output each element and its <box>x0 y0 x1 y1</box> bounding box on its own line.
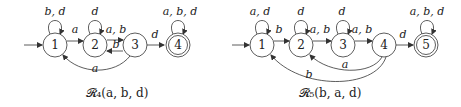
caption-r5: 𝓡₅(b, a, d) <box>299 86 362 100</box>
state-2: 2 <box>289 33 313 57</box>
edge-4-1 <box>271 55 386 82</box>
label-loop1: a, d <box>250 5 271 18</box>
automaton-r4: b, d d a, b, d a a, b b d a 1 2 3 <box>24 5 197 100</box>
automaton-r5: a, d d d a, b, d b a, b a, b d a b 1 2 <box>232 5 444 100</box>
label-loop1: b, d <box>44 5 65 18</box>
svg-text:3: 3 <box>339 38 347 52</box>
label-e12: a <box>72 23 79 36</box>
loop-1 <box>255 21 268 35</box>
svg-text:2: 2 <box>297 38 305 52</box>
label-e34: d <box>151 28 158 41</box>
state-3: 3 <box>331 33 355 57</box>
label-e45: d <box>399 28 406 41</box>
label-loop2: d <box>297 5 304 18</box>
label-e23: a, b <box>310 23 331 36</box>
svg-text:2: 2 <box>91 38 99 52</box>
label-e32: b <box>112 38 119 51</box>
automata-diagram: b, d d a, b, d a a, b b d a 1 2 3 <box>0 0 461 107</box>
state-4-accepting: 4 <box>166 33 190 57</box>
label-e34: a, b <box>352 23 373 36</box>
caption-r4: 𝓡₄(a, b, d) <box>86 86 149 100</box>
state-3: 3 <box>123 33 147 57</box>
state-5-accepting: 5 <box>414 33 438 57</box>
svg-text:1: 1 <box>51 38 59 52</box>
label-loop5: a, b, d <box>410 5 445 18</box>
svg-text:1: 1 <box>258 38 266 52</box>
label-e23: a, b <box>106 23 127 36</box>
loop-1 <box>48 21 61 35</box>
label-loop4: a, b, d <box>163 5 198 18</box>
label-loop3: d <box>338 5 345 18</box>
label-e41: b <box>305 68 312 81</box>
loop-3 <box>336 21 349 35</box>
state-2: 2 <box>83 33 107 57</box>
svg-text:4: 4 <box>380 38 388 52</box>
state-4: 4 <box>372 33 396 57</box>
state-1: 1 <box>43 33 67 57</box>
svg-text:4: 4 <box>174 38 182 52</box>
loop-5 <box>420 21 433 35</box>
label-e12: b <box>275 23 282 36</box>
loop-2 <box>294 21 307 35</box>
label-e42: a <box>342 58 349 71</box>
svg-text:3: 3 <box>131 38 139 52</box>
state-1: 1 <box>250 33 274 57</box>
svg-text:5: 5 <box>422 38 430 52</box>
loop-4 <box>171 21 184 35</box>
label-loop2: d <box>91 5 98 18</box>
loop-2 <box>88 21 101 35</box>
label-e31: a <box>92 62 99 75</box>
